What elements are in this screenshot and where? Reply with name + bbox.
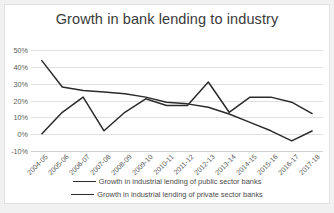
x-axis-tick-label: 2009-10: [131, 153, 154, 176]
y-axis-tick-label: 50%: [14, 46, 28, 55]
legend-line-icon: [71, 194, 94, 195]
chart-legend: Growth in industrial lending of public s…: [5, 175, 329, 201]
y-axis-tick-label: 40%: [14, 62, 28, 71]
x-axis-tick-label: 2008-09: [110, 153, 133, 176]
legend-label: Growth in industrial lending of public s…: [99, 177, 262, 186]
chart-card: Growth in bank lending to industry -10%0…: [4, 4, 330, 204]
y-axis-tick-label: -10%: [11, 147, 28, 156]
x-axis-tick-label: 2015-16: [256, 153, 279, 176]
y-axis-tick-label: 20%: [14, 96, 28, 105]
series-lines: [31, 50, 323, 151]
legend-label: Growth in industrial lending of private …: [97, 190, 263, 199]
x-axis-tick-label: 2016-17: [277, 153, 300, 176]
plot-area: -10%0%10%20%30%40%50%: [31, 50, 323, 151]
series-line: [41, 60, 312, 141]
x-axis-tick-label: 2006-07: [68, 153, 91, 176]
x-axis-tick-label: 2010-11: [152, 153, 175, 176]
y-axis-tick-label: 0%: [18, 130, 28, 139]
x-axis-tick-label: 2007-08: [89, 153, 112, 176]
x-axis: [31, 151, 323, 152]
legend-line-icon: [73, 181, 96, 182]
x-axis-tick-label: 2014-15: [235, 153, 258, 176]
x-axis-tick-label: 2013-14: [214, 153, 237, 176]
x-axis-tick-label: 2011-12: [173, 153, 196, 176]
x-axis-tick-label: 2005-06: [47, 153, 70, 176]
chart-title: Growth in bank lending to industry: [5, 11, 329, 27]
x-axis-tick-label: 2004-05: [26, 153, 49, 176]
legend-item-private: Growth in industrial lending of private …: [5, 188, 329, 201]
x-axis-tick-label: 2017-18: [297, 153, 320, 176]
y-axis-tick-label: 10%: [14, 113, 28, 122]
x-axis-tick-label: 2012-13: [193, 153, 216, 176]
legend-item-public: Growth in industrial lending of public s…: [5, 175, 329, 188]
y-axis-tick-label: 30%: [14, 79, 28, 88]
